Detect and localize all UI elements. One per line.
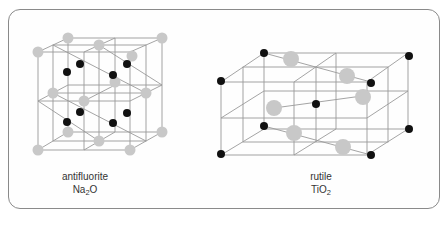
antifluorite-caption: antifluorite Na2O (45, 170, 125, 196)
antifluorite-black-atoms (63, 60, 131, 127)
rutile-structure-name: rutile (291, 170, 351, 183)
antifluorite-formula: Na2O (45, 183, 125, 196)
antifluorite-structure-name: antifluorite (45, 170, 125, 183)
rutile-caption: rutile TiO2 (291, 170, 351, 196)
rutile-formula: TiO2 (291, 183, 351, 196)
